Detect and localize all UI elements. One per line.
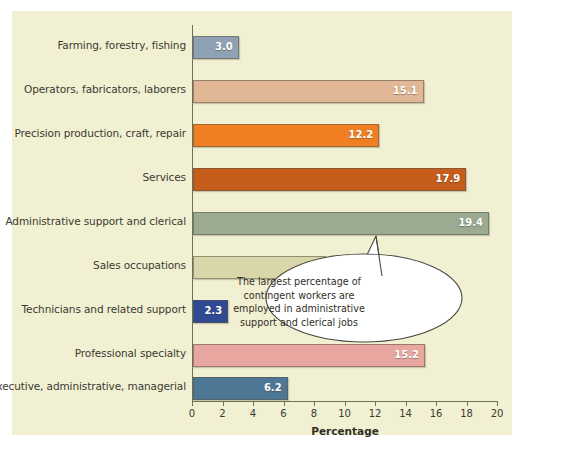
x-tick-label: 2 bbox=[211, 408, 235, 419]
bar-administrative-support-and-clerical[interactable]: 19.4 bbox=[193, 212, 489, 235]
bar-value-label: 6.2 bbox=[264, 382, 282, 393]
x-tick bbox=[497, 401, 498, 406]
category-label: Services bbox=[0, 171, 186, 183]
bar-value-label: 3.0 bbox=[215, 41, 233, 52]
bar-services[interactable]: 17.9 bbox=[193, 168, 466, 191]
bar-precision-production-craft-repair[interactable]: 12.2 bbox=[193, 124, 379, 147]
bar-operators-fabricators-laborers[interactable]: 15.1 bbox=[193, 80, 424, 103]
x-tick bbox=[314, 401, 315, 406]
category-label: Farming, forestry, fishing bbox=[0, 39, 186, 51]
category-label: Executive, administrative, managerial bbox=[0, 380, 186, 392]
bar-value-label: 12.2 bbox=[349, 129, 374, 140]
annotation-line: support and clerical jobs bbox=[220, 316, 378, 330]
chart-figure: Farming, forestry, fishing 3.0 Operators… bbox=[12, 11, 512, 435]
category-label: Administrative support and clerical bbox=[0, 215, 186, 227]
x-tick-label: 6 bbox=[272, 408, 296, 419]
x-tick-label: 12 bbox=[363, 408, 387, 419]
annotation-text: The largest percentage of contingent wor… bbox=[220, 275, 378, 329]
bar-value-label: 15.1 bbox=[393, 85, 418, 96]
category-label: Professional specialty bbox=[0, 347, 186, 359]
bar-row: Precision production, craft, repair 12.2 bbox=[12, 124, 512, 148]
bar-value-label: 15.2 bbox=[394, 349, 419, 360]
annotation-line: employed in administrative bbox=[220, 302, 378, 316]
bar-row: Administrative support and clerical 19.4 bbox=[12, 212, 512, 236]
x-tick-label: 10 bbox=[333, 408, 357, 419]
category-label: Operators, fabricators, laborers bbox=[0, 83, 186, 95]
category-label: Technicians and related support bbox=[0, 303, 186, 315]
x-tick bbox=[406, 401, 407, 406]
bar-row: Farming, forestry, fishing 3.0 bbox=[12, 36, 512, 60]
bar-row: Executive, administrative, managerial 6.… bbox=[12, 377, 512, 401]
bar-value-label: 17.9 bbox=[436, 173, 461, 184]
x-tick bbox=[345, 401, 346, 406]
x-tick bbox=[467, 401, 468, 406]
category-label: Sales occupations bbox=[0, 259, 186, 271]
annotation-line: The largest percentage of bbox=[220, 275, 378, 289]
x-tick bbox=[192, 401, 193, 406]
x-tick bbox=[223, 401, 224, 406]
x-tick-label: 20 bbox=[485, 408, 509, 419]
x-tick-label: 14 bbox=[394, 408, 418, 419]
bar-value-label: 8.7 bbox=[302, 261, 320, 272]
x-tick bbox=[436, 401, 437, 406]
x-tick-label: 18 bbox=[455, 408, 479, 419]
annotation-line: contingent workers are bbox=[220, 289, 378, 303]
x-tick bbox=[284, 401, 285, 406]
bar-executive-administrative-managerial[interactable]: 6.2 bbox=[193, 377, 288, 400]
bar-professional-specialty[interactable]: 15.2 bbox=[193, 344, 425, 367]
bar-row: Services 17.9 bbox=[12, 168, 512, 192]
plot-area: Farming, forestry, fishing 3.0 Operators… bbox=[12, 11, 512, 435]
bar-farming-forestry-fishing[interactable]: 3.0 bbox=[193, 36, 239, 59]
x-tick-label: 0 bbox=[180, 408, 204, 419]
x-tick-label: 8 bbox=[302, 408, 326, 419]
bar-value-label: 19.4 bbox=[458, 217, 483, 228]
x-axis-title: Percentage bbox=[192, 425, 498, 437]
x-tick bbox=[253, 401, 254, 406]
category-label: Precision production, craft, repair bbox=[0, 127, 186, 139]
x-tick bbox=[375, 401, 376, 406]
x-tick-label: 16 bbox=[424, 408, 448, 419]
bar-row: Professional specialty 15.2 bbox=[12, 344, 512, 368]
x-tick-label: 4 bbox=[241, 408, 265, 419]
bar-row: Operators, fabricators, laborers 15.1 bbox=[12, 80, 512, 104]
